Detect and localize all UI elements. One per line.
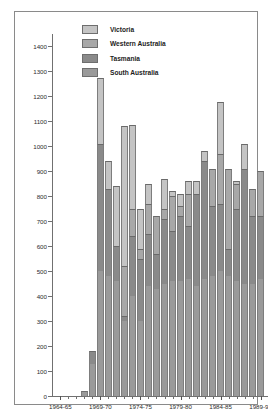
bar-segment [153,289,159,396]
bar-column [257,171,263,396]
bar-segment [145,234,151,286]
bar-segment [97,144,103,271]
bar-segment [249,284,255,396]
bar-segment [129,125,135,209]
y-axis-tick-label: 1100 [34,118,47,125]
bar-segment [145,286,151,396]
y-axis-tick-label: 900 [37,168,47,175]
bar-segment [193,181,199,193]
bar-segment [137,321,143,396]
bar-segment [201,279,207,396]
bar-segment [137,249,143,259]
y-axis-tick [48,321,52,322]
bar-segment [193,286,199,396]
legend-item: Western Australia [82,39,166,48]
y-axis-tick [48,246,52,247]
bar-segment [113,186,119,246]
y-axis-tick-label: 100 [37,368,47,375]
bar-segment [129,236,135,296]
x-axis-tick-label: 1979-80 [169,403,192,410]
bar-segment [209,169,215,206]
bar-column [129,125,135,396]
x-axis-tick [197,396,198,399]
x-axis-tick [189,396,190,399]
legend-item: Victoria [82,25,166,34]
y-axis-tick-label: 700 [37,218,47,225]
bar-segment [97,78,103,143]
bar-column [249,189,255,396]
bar-column [209,169,215,396]
bar-segment [121,321,127,396]
bar-segment [89,364,95,396]
bar-segment [217,204,223,271]
bar-column [89,351,95,396]
x-axis-tick [173,396,174,399]
x-axis-tick [124,396,125,399]
bar-segment [241,284,247,396]
legend-item: Tasmania [82,54,166,63]
bar-segment [217,271,223,396]
chart-page: 0100200300400500600700800900100011001200… [0,0,268,415]
bar-column [225,169,231,396]
x-axis-tick-major [100,396,101,400]
bar-segment [257,171,263,216]
y-axis-tick [48,71,52,72]
y-axis-tick-label: 500 [37,268,47,275]
bar-segment [225,249,231,276]
bar-segment [121,266,127,316]
legend-label: Victoria [110,26,134,33]
bar-segment [129,296,135,396]
bar-segment [257,279,263,396]
y-axis-tick-label: 400 [37,293,47,300]
bar-segment [225,169,231,249]
x-axis-tick [245,396,246,399]
bar-segment [169,231,175,281]
x-axis-tick-major [60,396,61,400]
y-axis-tick [48,171,52,172]
bar-segment [241,169,247,284]
x-axis-tick [76,396,77,399]
bar-segment [233,281,239,396]
bar-segment [257,216,263,278]
bar-column [145,184,151,396]
y-axis-tick [48,371,52,372]
bar-segment [177,216,183,281]
x-axis-tick [205,396,206,399]
y-axis-tick [48,296,52,297]
y-axis-tick-label: 600 [37,243,47,250]
y-axis-tick-label: 300 [37,318,47,325]
y-axis-tick-label: 1200 [33,93,47,100]
bar-segment [233,209,239,281]
bar-segment [129,209,135,236]
legend-label: Tasmania [110,55,140,62]
y-axis-tick-label: 1000 [33,143,47,150]
y-axis-tick [48,146,52,147]
bar-segment [145,204,151,234]
x-axis-tick [165,396,166,399]
bar-segment [249,189,255,216]
bar-column [137,209,143,396]
bar-segment [177,281,183,396]
x-axis-tick-label: 1964-65 [49,403,72,410]
chart-legend: VictoriaWestern AustraliaTasmaniaSouth A… [82,25,166,77]
bar-segment [201,151,207,161]
y-axis-tick [48,121,52,122]
bar-segment [105,161,111,188]
bar-segment [121,126,127,266]
bar-segment [89,351,95,363]
bar-column [161,179,167,396]
bar-segment [161,284,167,396]
bar-column [105,161,111,396]
bar-segment [97,271,103,396]
bar-column [233,181,239,396]
bar-column [241,144,247,396]
bar-segment [137,259,143,321]
bar-segment [105,189,111,276]
bar-column [169,191,175,396]
x-axis-tick [68,396,69,399]
x-axis-tick-label: 1969-70 [89,403,112,410]
bar-segment [225,276,231,396]
x-axis-tick [253,396,254,399]
bar-segment [217,154,223,204]
bar-segment [193,194,199,286]
